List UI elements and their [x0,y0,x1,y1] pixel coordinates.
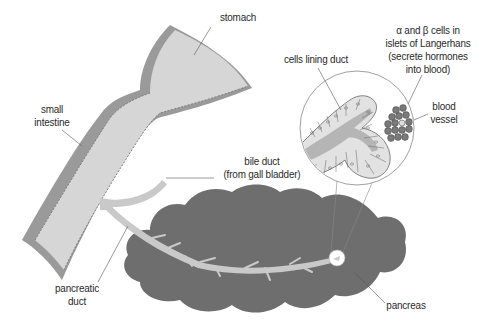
label-stomach: stomach [211,11,264,24]
label-pancreas-text: pancreas [382,299,430,312]
label-bile-duct-line1: bile duct [214,155,310,168]
label-stomach-text: stomach [211,11,264,24]
label-small-intestine-line1: small [26,103,78,116]
label-pancreas: pancreas [382,299,430,312]
label-pancreatic-duct-line2: duct [49,295,106,308]
pancreatic-duct-leader [98,226,128,282]
label-islets-line3: (secrete hormones [380,50,476,63]
label-pancreatic-duct-line1: pancreatic [49,282,106,295]
label-islets-line4: into blood) [380,63,476,76]
magnified-view [300,71,414,185]
label-blood-vessel-line1: blood [424,100,464,113]
label-pancreatic-duct: pancreatic duct [49,282,106,308]
label-islets: α and β cells in islets of Langerhans (s… [380,24,476,76]
label-bile-duct-line2: (from gall bladder) [214,168,310,181]
label-cells-lining-duct-text: cells lining duct [276,53,355,66]
label-small-intestine: small intestine [26,103,78,129]
label-small-intestine-line2: intestine [26,116,78,129]
label-blood-vessel: blood vessel [424,100,464,126]
label-cells-lining-duct: cells lining duct [276,53,355,66]
label-islets-line2: islets of Langerhans [380,37,476,50]
islets-leader [408,75,422,104]
label-blood-vessel-line2: vessel [424,113,464,126]
label-islets-line1: α and β cells in [380,24,476,37]
bile-duct [108,180,167,207]
label-bile-duct: bile duct (from gall bladder) [214,155,310,181]
small-intestine-leader [62,130,82,146]
